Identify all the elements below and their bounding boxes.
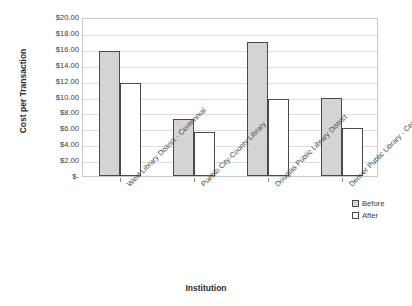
chart-legend: BeforeAfter (352, 197, 404, 221)
y-axis-title: Cost per Transaction (16, 22, 30, 160)
x-axis-tick-mark (342, 178, 343, 182)
y-axis-tick-labels: $20.00$18.00$16.00$14.00$12.00$10.00$8.0… (33, 0, 79, 306)
x-axis-tick-label: Weld Library District - Centennial (125, 182, 131, 188)
bar-before (99, 51, 120, 176)
x-axis-tick-label: Pueblo City-County Library (199, 182, 205, 188)
legend-item-before[interactable]: Before (352, 197, 404, 209)
y-axis-tick-label: $18.00 (33, 30, 79, 38)
y-axis-tick-label: $6.00 (33, 125, 79, 133)
y-axis-tick-label: $20.00 (33, 14, 79, 22)
y-axis-tick-label: $4.00 (33, 141, 79, 149)
y-axis-tick-label: $8.00 (33, 109, 79, 117)
legend-label: Before (362, 199, 384, 208)
legend-item-after[interactable]: After (352, 209, 404, 221)
gridline (83, 51, 377, 52)
y-axis-tick-label: $2.00 (33, 157, 79, 165)
y-axis-tick-label: $10.00 (33, 94, 79, 102)
bar-after (120, 83, 141, 176)
y-axis-tick-label: $- (33, 173, 79, 181)
legend-swatch-icon (352, 212, 359, 219)
gridline (83, 67, 377, 68)
bar-chart: Cost per Transaction $20.00$18.00$16.00$… (0, 0, 412, 306)
bar-after (268, 99, 289, 176)
y-axis-tick-label: $16.00 (33, 46, 79, 54)
x-axis-tick-label: Douglas Public Library District (273, 182, 279, 188)
legend-label: After (362, 211, 378, 220)
x-axis-tick-label: Denver Public Library - Central (347, 182, 353, 188)
legend-swatch-icon (352, 200, 359, 207)
gridline (83, 35, 377, 36)
x-axis-tick-mark (120, 178, 121, 182)
y-axis-tick-label: $14.00 (33, 62, 79, 70)
x-axis-title: Institution (0, 283, 412, 293)
x-axis-tick-mark (194, 178, 195, 182)
x-axis-tick-mark (268, 178, 269, 182)
bar-before (247, 42, 268, 176)
y-axis-title-text: Cost per Transaction (18, 49, 28, 134)
y-axis-tick-label: $12.00 (33, 78, 79, 86)
